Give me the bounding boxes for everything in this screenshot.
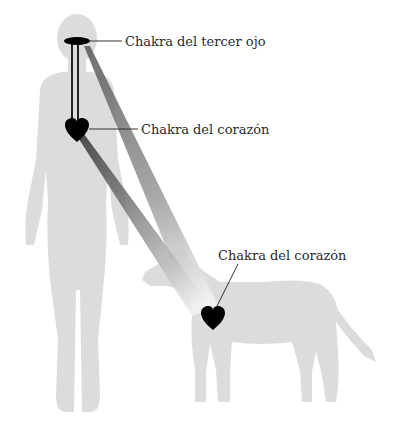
diagram-canvas bbox=[0, 0, 397, 429]
chakra-diagram: Chakra del tercer ojo Chakra del corazón… bbox=[0, 0, 397, 429]
label-third-eye-chakra: Chakra del tercer ojo bbox=[125, 35, 266, 48]
third-eye-chakra-icon bbox=[64, 37, 90, 45]
label-human-heart-chakra: Chakra del corazón bbox=[141, 123, 269, 136]
label-dog-heart-chakra: Chakra del corazón bbox=[218, 249, 346, 262]
